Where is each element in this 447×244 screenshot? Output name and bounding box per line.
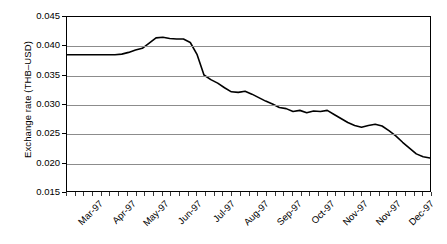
y-axis-tick-label: 0.035: [4, 70, 60, 80]
x-axis-minor-tick: [301, 192, 302, 196]
gridline: [67, 134, 430, 135]
x-axis-minor-tick: [379, 192, 380, 196]
x-axis-minor-tick: [405, 192, 406, 196]
x-axis-minor-tick: [162, 192, 163, 196]
gridline: [67, 164, 430, 165]
line-chart: Exchange rate (THB–USD) 0.0450.0400.0350…: [0, 0, 447, 244]
gridline: [67, 46, 430, 47]
x-axis-minor-tick: [170, 192, 171, 196]
x-axis-minor-tick: [266, 192, 267, 196]
x-axis-minor-tick: [396, 192, 397, 196]
x-axis-minor-tick: [292, 192, 293, 196]
x-axis-minor-tick: [75, 192, 76, 196]
y-axis-tick-label: 0.045: [4, 11, 60, 21]
x-axis-minor-tick: [109, 192, 110, 196]
x-axis-minor-tick: [83, 192, 84, 196]
x-axis-tick-label: Dec-97: [397, 198, 436, 237]
x-axis-tick-label: Nov-97: [331, 198, 370, 237]
plot-area: [66, 16, 431, 192]
x-axis-minor-tick: [214, 192, 215, 196]
y-axis-tick-label: 0.040: [4, 40, 60, 50]
x-axis-minor-tick: [127, 192, 128, 196]
x-axis-tick-label: Aug-97: [231, 198, 270, 237]
x-axis-minor-tick: [283, 192, 284, 196]
x-axis-minor-tick: [144, 192, 145, 196]
x-axis-minor-tick: [422, 192, 423, 196]
x-axis-minor-tick: [136, 192, 137, 196]
x-axis-minor-tick: [66, 192, 67, 196]
x-axis-tick-label: Jul-97: [198, 198, 237, 237]
x-axis-tick-label: May-97: [132, 198, 171, 237]
x-axis-minor-tick: [414, 192, 415, 196]
x-axis-label-layer: Mar-97Apr-97May-97Jun-97Jul-97Aug-97Sep-…: [66, 198, 431, 244]
x-axis-minor-tick: [370, 192, 371, 196]
x-axis-minor-tick: [222, 192, 223, 196]
gridline: [67, 76, 430, 77]
x-axis-minor-tick: [153, 192, 154, 196]
x-axis-tick-label: Sep-97: [265, 198, 304, 237]
x-axis-minor-tick: [388, 192, 389, 196]
y-axis-tick-label: 0.020: [4, 158, 60, 168]
x-axis-minor-tick: [344, 192, 345, 196]
x-axis-minor-tick: [361, 192, 362, 196]
x-axis-minor-tick: [205, 192, 206, 196]
y-axis-tick-label: 0.030: [4, 99, 60, 109]
y-axis-tick-label: 0.015: [4, 187, 60, 197]
x-axis-minor-tick: [335, 192, 336, 196]
y-axis-tick-label: 0.025: [4, 128, 60, 138]
x-axis-tick-label: Apr-97: [99, 198, 138, 237]
x-axis-minor-tick: [188, 192, 189, 196]
x-axis-tick-label: Oct-97: [298, 198, 337, 237]
x-axis-minor-tick: [309, 192, 310, 196]
x-axis-minor-tick: [92, 192, 93, 196]
x-axis-minor-tick: [257, 192, 258, 196]
x-axis-minor-tick: [240, 192, 241, 196]
x-axis-minor-tick: [275, 192, 276, 196]
x-axis-minor-tick: [431, 192, 432, 196]
x-axis-minor-tick: [196, 192, 197, 196]
x-axis-minor-tick: [327, 192, 328, 196]
x-axis-tick-label: Jun-97: [165, 198, 204, 237]
x-axis-minor-tick: [249, 192, 250, 196]
series-line-thb-usd: [67, 17, 430, 191]
x-axis-minor-tick: [179, 192, 180, 196]
x-axis-minor-tick: [231, 192, 232, 196]
series-polyline: [67, 37, 430, 158]
x-axis-tick-label: Nov-97: [364, 198, 403, 237]
x-axis-minor-tick: [318, 192, 319, 196]
x-axis-minor-tick: [101, 192, 102, 196]
x-axis-minor-tick: [118, 192, 119, 196]
x-axis-tick-label: Mar-97: [65, 198, 104, 237]
x-axis-minor-tick: [353, 192, 354, 196]
gridline: [67, 105, 430, 106]
